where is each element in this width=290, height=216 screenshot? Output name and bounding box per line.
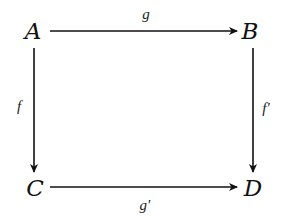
commutative-diagram: A B C D g f f′ g′ xyxy=(0,0,290,216)
label-g: g xyxy=(142,7,150,22)
node-a: A xyxy=(25,20,42,43)
node-d: D xyxy=(244,177,262,200)
label-f-prime: f′ xyxy=(262,101,269,116)
node-c: C xyxy=(26,177,44,200)
label-f: f xyxy=(17,99,21,114)
node-b: B xyxy=(242,20,259,43)
label-g-prime: g′ xyxy=(140,198,151,213)
